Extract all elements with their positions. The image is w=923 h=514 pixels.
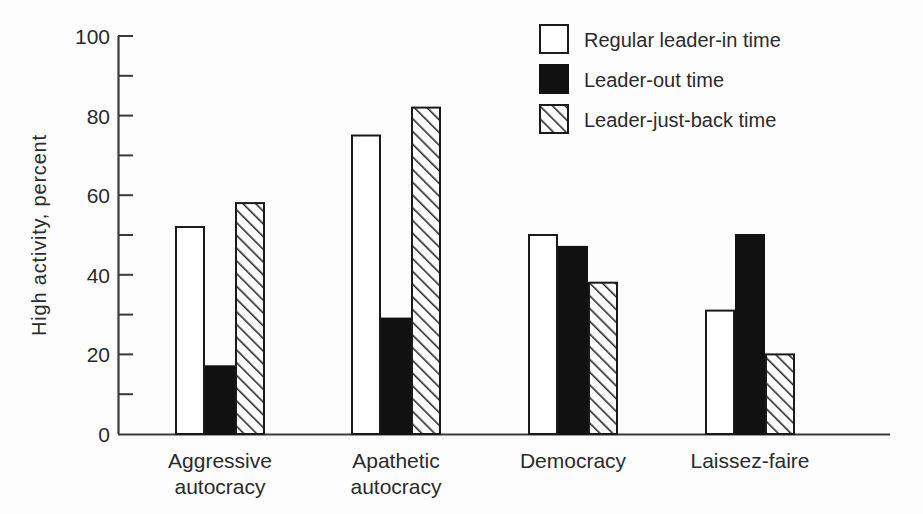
black-square-swatch-icon (540, 65, 568, 93)
legend-label-leader-just-back-time: Leader-just-back time (584, 109, 776, 131)
category-label-aggressive-autocracy-line1: Aggressive (168, 449, 272, 472)
white-square-swatch-icon (540, 25, 568, 53)
category-label-apathetic-autocracy-line2: autocracy (350, 475, 442, 498)
category-label-apathetic-autocracy-line1: Apathetic (352, 449, 440, 472)
hatched-square-swatch-icon (540, 105, 568, 133)
bar-laissez-faire-leader-just-back (766, 354, 794, 434)
bar-democracy-leader-out (559, 247, 587, 434)
category-label-aggressive-autocracy-line2: autocracy (174, 475, 266, 498)
y-tick-label-20: 20 (87, 343, 110, 366)
y-tick-label-80: 80 (87, 105, 110, 128)
y-tick-label-40: 40 (87, 264, 110, 287)
bar-apathetic-autocracy-leader-out (382, 319, 410, 434)
bar-aggressive-autocracy-regular-leader-in (176, 227, 204, 434)
chart-canvas: 100 80 60 40 20 0 High activity, percent (0, 0, 923, 514)
legend-label-leader-out-time: Leader-out time (584, 69, 724, 91)
bar-laissez-faire-regular-leader-in (706, 311, 734, 434)
bar-aggressive-autocracy-leader-out (206, 366, 234, 434)
y-tick-label-0: 0 (98, 423, 110, 446)
y-axis-title: High activity, percent (28, 134, 50, 336)
legend-item-leader-out-time[interactable]: Leader-out time (540, 65, 724, 93)
bar-chart-figure: 100 80 60 40 20 0 High activity, percent (0, 0, 923, 514)
chart-background (0, 0, 923, 514)
legend-label-regular-leader-in-time: Regular leader-in time (584, 29, 781, 51)
bar-laissez-faire-leader-out (736, 235, 764, 434)
y-tick-label-100: 100 (75, 25, 110, 48)
bar-apathetic-autocracy-regular-leader-in (352, 136, 380, 435)
y-tick-label-60: 60 (87, 184, 110, 207)
bar-aggressive-autocracy-leader-just-back (236, 203, 264, 434)
bar-democracy-leader-just-back (589, 283, 617, 434)
category-label-laissez-faire: Laissez-faire (690, 449, 809, 472)
category-label-democracy: Democracy (520, 449, 627, 472)
bar-democracy-regular-leader-in (529, 235, 557, 434)
bar-apathetic-autocracy-leader-just-back (412, 108, 440, 434)
